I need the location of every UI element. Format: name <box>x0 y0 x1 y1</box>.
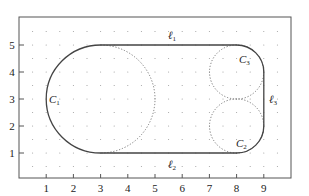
grid-dot <box>250 152 251 153</box>
grid-dot <box>195 166 196 167</box>
grid-dot <box>46 85 47 86</box>
grid-dot <box>277 44 278 45</box>
grid-dot <box>73 125 74 126</box>
grid-dot <box>168 71 169 72</box>
grid-dot <box>46 31 47 32</box>
y-tick-label: 3 <box>9 93 15 105</box>
grid-dot <box>277 85 278 86</box>
grid-dot <box>32 98 33 99</box>
grid-dot <box>250 85 251 86</box>
grid-dot <box>32 112 33 113</box>
grid-dot <box>59 85 60 86</box>
grid-dot <box>195 85 196 86</box>
grid-dot <box>222 58 223 59</box>
grid-dot <box>250 71 251 72</box>
grid-dot <box>263 139 264 140</box>
grid-dot <box>86 71 87 72</box>
grid-dot <box>182 31 183 32</box>
grid-dot <box>32 44 33 45</box>
grid-dot <box>127 98 128 99</box>
grid-dot <box>168 112 169 113</box>
grid-dot <box>127 112 128 113</box>
grid-dot <box>141 85 142 86</box>
grid-dot <box>209 98 210 99</box>
x-tick-label: 8 <box>234 182 240 194</box>
grid-dot <box>141 139 142 140</box>
grid-dot <box>100 85 101 86</box>
grid-dot <box>154 58 155 59</box>
grid-dot <box>141 58 142 59</box>
grid-dot <box>100 125 101 126</box>
grid-dot <box>32 139 33 140</box>
grid-dot <box>154 71 155 72</box>
grid-dot <box>182 139 183 140</box>
grid-dot <box>154 112 155 113</box>
grid-dot <box>73 31 74 32</box>
x-tick-label: 6 <box>179 182 185 194</box>
grid-dot <box>209 58 210 59</box>
grid-dot <box>236 112 237 113</box>
grid-dot <box>127 85 128 86</box>
grid-dot <box>277 31 278 32</box>
grid-dot <box>86 98 87 99</box>
grid-dot <box>86 58 87 59</box>
grid-dot <box>222 166 223 167</box>
grid-dot <box>86 85 87 86</box>
grid-dot <box>236 125 237 126</box>
grid-dot <box>154 31 155 32</box>
grid-dot <box>222 85 223 86</box>
grid-dot <box>277 112 278 113</box>
grid-dot <box>114 58 115 59</box>
grid-dot <box>114 85 115 86</box>
grid-dot <box>168 139 169 140</box>
grid-dot <box>182 85 183 86</box>
grid-dot <box>46 152 47 153</box>
grid-dot <box>263 58 264 59</box>
grid-dot <box>100 139 101 140</box>
grid-dot <box>236 71 237 72</box>
grid-dot <box>127 125 128 126</box>
grid-dot <box>141 98 142 99</box>
grid-dot <box>114 31 115 32</box>
grid-dot <box>263 44 264 45</box>
grid-dot <box>209 139 210 140</box>
x-axis-ticks: 123456789 <box>43 174 267 194</box>
grid-dot <box>209 112 210 113</box>
grid-dot <box>127 139 128 140</box>
grid-dot <box>182 125 183 126</box>
grid-dot <box>141 166 142 167</box>
grid-dot <box>154 166 155 167</box>
grid-dot <box>100 112 101 113</box>
grid-dot <box>236 58 237 59</box>
grid-dot <box>73 44 74 45</box>
grid-dot <box>86 112 87 113</box>
x-tick-label: 4 <box>125 182 131 194</box>
grid-dot <box>59 31 60 32</box>
label-c1: C1 <box>49 93 60 107</box>
x-tick-label: 2 <box>71 182 77 194</box>
grid-dot <box>236 85 237 86</box>
grid-dot <box>127 71 128 72</box>
grid-dot <box>114 71 115 72</box>
grid-dot <box>250 44 251 45</box>
grid-dot <box>141 71 142 72</box>
grid-dot <box>114 98 115 99</box>
grid-dot <box>59 71 60 72</box>
diagram-canvas: 123456789 12345 ℓ1 ℓ2 ℓ3 C1 C2 C3 <box>0 0 309 196</box>
grid-dot <box>100 166 101 167</box>
grid-dot <box>59 125 60 126</box>
grid-dot <box>59 58 60 59</box>
grid-dot <box>114 166 115 167</box>
grid-dot <box>182 112 183 113</box>
grid-dot <box>195 125 196 126</box>
grid-dot <box>168 98 169 99</box>
grid-dot <box>222 31 223 32</box>
grid-dot <box>222 139 223 140</box>
grid-dot <box>86 31 87 32</box>
grid-dot <box>195 58 196 59</box>
grid-dot <box>154 125 155 126</box>
grid-dot <box>46 44 47 45</box>
grid-dot <box>114 125 115 126</box>
grid-dot <box>73 166 74 167</box>
grid-dot <box>141 125 142 126</box>
